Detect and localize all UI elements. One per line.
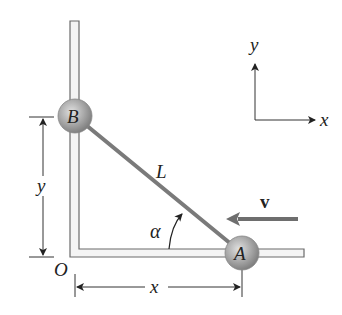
angle-label: α (150, 220, 161, 242)
physics-diagram: y x O L α B A v y x (0, 0, 342, 315)
rod-length-label: L (155, 161, 167, 182)
ball-a: A (225, 236, 259, 270)
y-dimension: y (29, 117, 54, 257)
velocity-arrow: v (226, 191, 298, 226)
angle-arc (169, 214, 182, 249)
ball-b: B (58, 99, 92, 133)
axis-x-label: x (319, 109, 329, 130)
velocity-label: v (260, 191, 270, 212)
dim-y-label: y (35, 175, 46, 196)
ball-a-label: A (232, 243, 246, 264)
dim-x-label: x (149, 276, 159, 297)
coordinate-axes: y x (248, 34, 329, 130)
ball-b-label: B (67, 106, 79, 127)
origin-label: O (54, 259, 68, 280)
x-dimension: x (75, 270, 242, 297)
axis-y-label: y (248, 34, 259, 55)
